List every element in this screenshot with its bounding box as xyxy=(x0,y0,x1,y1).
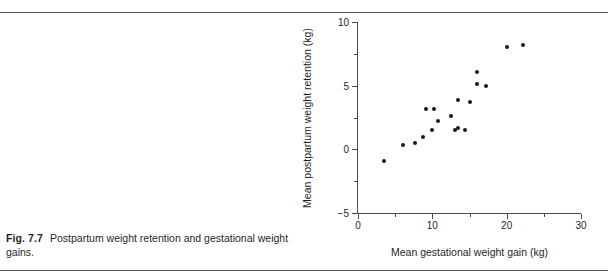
data-point xyxy=(456,98,460,102)
data-point xyxy=(463,128,467,132)
data-point xyxy=(430,128,434,132)
x-axis-tick xyxy=(358,214,359,219)
x-axis-tick-minor xyxy=(470,214,471,217)
figure-caption: Fig. 7.7Postpartum weight retention and … xyxy=(6,231,296,259)
y-axis-tick xyxy=(352,86,357,87)
data-point xyxy=(505,45,509,49)
y-axis-tick-minor xyxy=(354,54,357,55)
y-axis-tick xyxy=(352,149,357,150)
x-axis-tick-label: 0 xyxy=(355,220,361,231)
y-axis-tick-label: −5 xyxy=(338,208,349,219)
data-point xyxy=(475,82,479,86)
plot-area: −505100102030 xyxy=(358,22,581,213)
x-axis-tick-label: 30 xyxy=(575,220,586,231)
y-axis-title: Mean postpartum weight retention (kg) xyxy=(300,22,314,213)
figure-scatter-plot: Mean postpartum weight retention (kg) −5… xyxy=(300,14,600,266)
y-axis-tick xyxy=(352,22,357,23)
figure-caption-text: Postpartum weight retention and gestatio… xyxy=(6,232,288,258)
data-point xyxy=(468,100,472,104)
x-axis-tick-label: 10 xyxy=(427,220,438,231)
page-rule-bottom xyxy=(0,270,608,271)
x-axis-tick-minor xyxy=(544,214,545,217)
y-axis-tick-label: 0 xyxy=(343,144,349,155)
y-axis-line xyxy=(357,22,358,214)
x-axis-tick xyxy=(432,214,433,219)
y-axis-title-label: Mean postpartum weight retention (kg) xyxy=(301,28,313,208)
data-point xyxy=(424,107,428,111)
data-point xyxy=(521,43,525,47)
x-axis-tick xyxy=(507,214,508,219)
y-axis-tick-label: 5 xyxy=(343,80,349,91)
data-point xyxy=(401,143,405,147)
figure-number: Fig. 7.7 xyxy=(6,232,43,244)
x-axis-tick-label: 20 xyxy=(501,220,512,231)
x-axis-tick xyxy=(581,214,582,219)
data-point xyxy=(413,141,417,145)
y-axis-tick-minor xyxy=(354,181,357,182)
data-point xyxy=(421,135,425,139)
x-axis-title: Mean gestational weight gain (kg) xyxy=(358,246,581,258)
data-point xyxy=(436,119,440,123)
data-point xyxy=(456,126,460,130)
data-point xyxy=(432,107,436,111)
data-point xyxy=(484,84,488,88)
x-axis-tick-minor xyxy=(395,214,396,217)
y-axis-tick-minor xyxy=(354,118,357,119)
y-axis-tick xyxy=(352,213,357,214)
page-rule-top xyxy=(0,12,608,13)
data-point xyxy=(475,70,479,74)
data-point xyxy=(382,159,386,163)
data-point xyxy=(449,114,453,118)
y-axis-tick-label: 10 xyxy=(338,17,349,28)
